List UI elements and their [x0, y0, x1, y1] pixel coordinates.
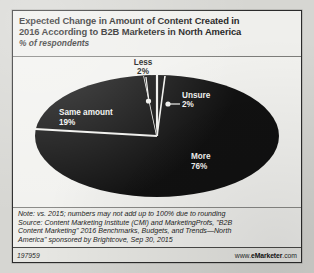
page-title-line-1: Expected Change in Amount of Content Cre…: [19, 15, 295, 26]
unsure-label-value: 2%: [182, 100, 195, 109]
chart-card: Expected Change in Amount of Content Cre…: [12, 10, 302, 263]
source-line-3: America" sponsored by Brightcove, Sep 30…: [18, 236, 296, 245]
brand-suffix: .com: [282, 252, 297, 259]
less-label-value: 2%: [137, 67, 150, 76]
chart-header: Expected Change in Amount of Content Cre…: [13, 11, 301, 51]
less-label-name: Less: [134, 58, 153, 67]
more-label-name: More: [191, 152, 211, 161]
scanned-page-background: Expected Change in Amount of Content Cre…: [0, 0, 314, 273]
chart-footnotes: Note: vs. 2015; numbers may not add up t…: [13, 208, 301, 244]
page-title-line-2: 2016 According to B2B Marketers in North…: [19, 26, 295, 37]
chart-id: 197959: [17, 252, 40, 259]
same-amount-label-name: Same amount: [59, 108, 113, 117]
note-line-1: Note: vs. 2015; numbers may not add up t…: [18, 210, 296, 219]
pie-chart-svg: Less 2% Unsure 2% Same amount 19% More 7…: [13, 57, 301, 207]
brand-name: eMarketer: [251, 252, 282, 259]
brand-prefix: www.: [235, 252, 251, 259]
chart-footer-bar: 197959 www.eMarketer.com: [13, 248, 301, 262]
unsure-label-name: Unsure: [182, 91, 211, 100]
less-callout-dot: [146, 98, 151, 103]
chart-subtitle: % of respondents: [19, 38, 295, 49]
unsure-callout-dot: [165, 101, 170, 106]
pie-chart-plot-area: Less 2% Unsure 2% Same amount 19% More 7…: [13, 57, 301, 207]
source-line-2: Content Marketing" 2016 Benchmarks, Budg…: [18, 227, 296, 236]
same-amount-label-value: 19%: [59, 118, 76, 127]
emarketer-brand: www.eMarketer.com: [235, 252, 297, 259]
more-label-value: 76%: [191, 162, 208, 171]
source-line-1: Source: Content Marketing Institute (CMI…: [18, 219, 296, 228]
